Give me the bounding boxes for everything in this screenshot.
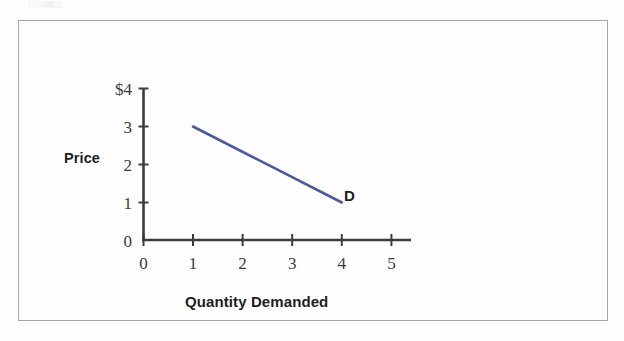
y-tick-label-0: 0 bbox=[100, 233, 132, 250]
x-tick-label-5: 5 bbox=[376, 255, 407, 272]
y-tick-label-3: 3 bbox=[100, 119, 132, 136]
y-tick-label-4: $4 bbox=[100, 81, 132, 98]
demand-chart-svg bbox=[0, 0, 624, 341]
demand-curve bbox=[193, 127, 342, 203]
demand-curve-label: D bbox=[344, 188, 355, 203]
x-tick-label-3: 3 bbox=[277, 255, 308, 272]
y-tick-label-2: 2 bbox=[100, 157, 132, 174]
y-tick-label-1: 1 bbox=[100, 195, 132, 212]
figure-page: $4 3 2 1 0 0 1 2 3 4 5 Price Quantity De… bbox=[0, 0, 624, 341]
x-axis-title: Quantity Demanded bbox=[185, 294, 328, 309]
x-tick-label-0: 0 bbox=[128, 255, 159, 272]
x-tick-label-2: 2 bbox=[227, 255, 258, 272]
y-axis-title: Price bbox=[64, 151, 100, 166]
x-tick-label-4: 4 bbox=[326, 255, 357, 272]
x-tick-label-1: 1 bbox=[178, 255, 209, 272]
